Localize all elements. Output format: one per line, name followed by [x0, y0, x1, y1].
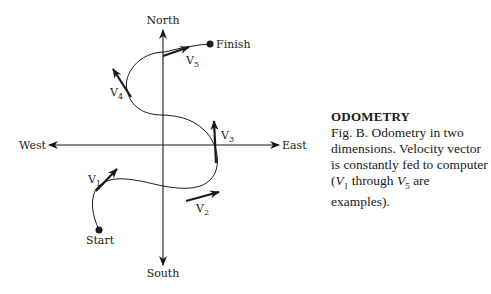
south-label: South — [147, 267, 180, 280]
compass-axes — [49, 30, 279, 265]
figure-caption: ODOMETRY Fig. B. Odometry in two dimensi… — [331, 109, 491, 210]
start-label: Start — [86, 234, 115, 247]
velocity-vectors — [96, 47, 219, 201]
v1-label: V1 — [87, 173, 101, 188]
v2-label: V2 — [195, 202, 209, 217]
caption-title: ODOMETRY — [331, 109, 491, 125]
west-label: West — [19, 139, 47, 152]
east-label: East — [282, 139, 307, 152]
v2-arrow — [186, 192, 219, 201]
caption-body: Fig. B. Odometry in two dimensions. Velo… — [331, 125, 491, 210]
v5-label: V5 — [185, 54, 199, 69]
finish-point — [207, 41, 214, 48]
v3-label: V3 — [220, 129, 234, 144]
finish-label: Finish — [216, 38, 250, 51]
v3-arrow — [214, 121, 216, 163]
north-label: North — [146, 14, 179, 27]
v4-label: V4 — [109, 86, 123, 101]
start-point — [96, 227, 103, 234]
